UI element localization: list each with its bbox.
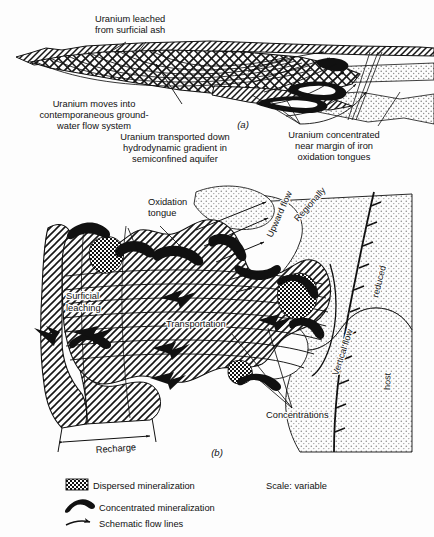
dispersed-mineralization-swatch [66,479,88,490]
panel-b-label-oxidation-tongue: Oxidation tongue [148,197,187,218]
svg-text:contemporaneous ground-: contemporaneous ground- [39,110,148,120]
svg-text:oxidation tongues: oxidation tongues [298,152,371,162]
svg-text:Uranium concentrated: Uranium concentrated [288,130,379,140]
svg-text:leaching: leaching [66,303,101,313]
figure-page: Uranium leached from surficial ash Urani… [0,0,434,537]
legend-item-label: Schematic flow lines [99,519,184,529]
panel-a-id: (a) [237,119,249,130]
svg-text:tongue: tongue [148,208,176,218]
panel-b-label-recharge: Recharge [95,442,136,455]
panel-b-label-host: host [382,372,393,390]
panel-b-label-concentrations: Concentrations [266,410,329,420]
figure-legend: Dispersed mineralization Concentrated mi… [0,466,434,537]
panel-b-id: (b) [211,447,223,458]
svg-text:from surficial ash: from surficial ash [95,25,165,35]
panel-a-label-concentrated: Uranium concentrated near margin of iron… [288,130,379,162]
scale-note: Scale: variable [266,481,327,491]
svg-text:Uranium leached: Uranium leached [95,14,165,24]
svg-text:hydrodynamic gradient in: hydrodynamic gradient in [123,143,227,153]
svg-text:water flow system: water flow system [56,121,131,131]
panel-a-label-moves-into: Uranium moves into contemporaneous groun… [39,99,148,131]
panel-b-label-transportation: Transportation [166,319,226,329]
panel-b-diagram: Oxidation tongue Surficial leaching Tran… [0,180,434,465]
svg-text:Oxidation: Oxidation [148,197,187,207]
legend-item-label: Dispersed mineralization [93,481,195,491]
svg-text:Uranium transported down: Uranium transported down [120,132,230,142]
panel-a-label-leached: Uranium leached from surficial ash [95,14,165,35]
schematic-flow-line-swatch [66,521,90,525]
svg-text:near margin of iron: near margin of iron [295,141,373,151]
panel-a-label-transported: Uranium transported down hydrodynamic gr… [120,132,230,164]
svg-text:semiconfined aquifer: semiconfined aquifer [132,154,218,164]
legend-item-label: Concentrated mineralization [99,503,215,513]
svg-text:Uranium moves into: Uranium moves into [53,99,136,109]
panel-a-diagram: Uranium leached from surficial ash Urani… [0,0,434,175]
svg-text:Surficial: Surficial [66,291,99,301]
concentrated-mineralization-swatch [65,499,95,513]
